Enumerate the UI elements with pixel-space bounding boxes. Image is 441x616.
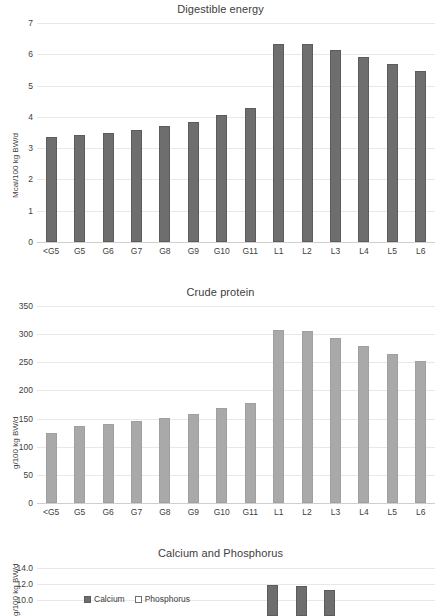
x-tick-label: G5: [74, 507, 85, 517]
bar: [267, 585, 278, 616]
y-tick-label: 4: [0, 112, 33, 121]
x-tick-label: G10: [214, 507, 230, 517]
legend-label: Phosphorus: [145, 594, 190, 604]
bar: [74, 135, 85, 242]
y-tick-label: 200: [0, 386, 33, 395]
bar: [302, 44, 313, 242]
x-tick-label: G11: [242, 507, 257, 517]
chart-crude-protein: Crude protein g/100 kg BW/d 050100150200…: [0, 283, 441, 551]
plot-area: g/100 kg BW/d 050100150200250300350 <G5G…: [0, 301, 441, 551]
bar: [159, 418, 170, 503]
bar: [46, 137, 57, 242]
legend-swatch-icon: [84, 596, 91, 603]
x-tick-label: G6: [102, 246, 113, 256]
bar: [387, 64, 398, 242]
x-tick-label: G7: [131, 507, 142, 517]
y-tick-label: 300: [0, 330, 33, 339]
x-tick-label: <G5: [43, 246, 59, 256]
bar: [358, 346, 369, 503]
x-axis-line: [37, 242, 435, 243]
x-tick-label: G8: [159, 507, 170, 517]
legend-label: Calcium: [94, 594, 125, 604]
x-tick-label: L4: [359, 246, 368, 256]
bar: [296, 586, 307, 616]
x-tick-label: <G5: [43, 507, 59, 517]
y-tick-label: 6: [0, 50, 33, 59]
x-tick-label: G9: [188, 246, 199, 256]
x-tick-label: G7: [131, 246, 142, 256]
y-tick-label: 1: [0, 206, 33, 215]
legend-item: Phosphorus: [135, 594, 190, 604]
chart-calcium-phosphorus: Calcium and Phosphorus g/100 kg BW/d 14.…: [0, 544, 441, 616]
y-tick-label: 250: [0, 358, 33, 367]
bar: [216, 408, 227, 503]
bars-group: [37, 306, 435, 503]
chart-title: Crude protein: [0, 285, 441, 299]
bar: [387, 354, 398, 503]
legend-swatch-icon: [135, 596, 142, 603]
bar: [103, 133, 114, 242]
y-tick-label: 0: [0, 499, 33, 508]
bar: [302, 331, 313, 503]
x-tick-label: L4: [359, 507, 368, 517]
bar: [216, 115, 227, 242]
y-tick-label: 14.0: [0, 564, 33, 573]
y-tick-label: 12.0: [0, 580, 33, 589]
x-tick-label: G9: [188, 507, 199, 517]
x-tick-label: G6: [102, 507, 113, 517]
bars-group: [37, 23, 435, 242]
chart-legend: CalciumPhosphorus: [84, 594, 190, 604]
bar: [245, 108, 256, 242]
bar: [159, 126, 170, 242]
y-tick-label: 150: [0, 414, 33, 423]
y-tick-label: 7: [0, 19, 33, 28]
bar: [273, 44, 284, 242]
x-tick-label: L5: [388, 246, 397, 256]
y-tick-label: 10.0: [0, 596, 33, 605]
y-tick-label: 50: [0, 470, 33, 479]
bar: [330, 50, 341, 242]
bar: [245, 403, 256, 503]
x-tick-label: L1: [274, 507, 283, 517]
x-tick-label: L3: [331, 246, 340, 256]
bar: [415, 361, 426, 503]
y-tick-label: 3: [0, 144, 33, 153]
bar: [131, 421, 142, 503]
x-tick-label: L1: [274, 246, 283, 256]
bar: [74, 426, 85, 503]
chart-title: Calcium and Phosphorus: [0, 546, 441, 560]
bar: [46, 433, 57, 503]
x-tick-label: L2: [302, 507, 311, 517]
x-tick-label: L2: [302, 246, 311, 256]
plot-area: Mcal/100 kg BW/d 01234567 <G5G5G6G7G8G9G…: [0, 18, 441, 278]
chart-title: Digestible energy: [0, 2, 441, 16]
y-tick-label: 0: [0, 238, 33, 247]
y-tick-label: 100: [0, 442, 33, 451]
bar: [131, 130, 142, 242]
bar: [188, 414, 199, 503]
legend-item: Calcium: [84, 594, 125, 604]
bar: [188, 122, 199, 242]
bar: [273, 330, 284, 503]
bar: [358, 57, 369, 242]
y-tick-label: 2: [0, 175, 33, 184]
y-tick-label: 5: [0, 81, 33, 90]
bar: [330, 338, 341, 503]
x-tick-label: G5: [74, 246, 85, 256]
bar: [324, 590, 335, 616]
chart-digestible-energy: Digestible energy Mcal/100 kg BW/d 01234…: [0, 0, 441, 278]
x-tick-label: G8: [159, 246, 170, 256]
x-tick-label: G10: [214, 246, 230, 256]
x-tick-label: L5: [388, 507, 397, 517]
bars-group: [37, 562, 435, 616]
plot-area: g/100 kg BW/d 14.012.010.0 CalciumPhosph…: [0, 562, 441, 616]
figure-three-panel-bar-charts: Digestible energy Mcal/100 kg BW/d 01234…: [0, 0, 441, 616]
x-tick-label: L6: [416, 507, 425, 517]
y-tick-label: 350: [0, 302, 33, 311]
bar: [415, 71, 426, 242]
x-axis-line: [37, 503, 435, 504]
bar: [103, 424, 114, 503]
x-tick-label: L3: [331, 507, 340, 517]
x-tick-label: L6: [416, 246, 425, 256]
x-tick-label: G11: [242, 246, 257, 256]
